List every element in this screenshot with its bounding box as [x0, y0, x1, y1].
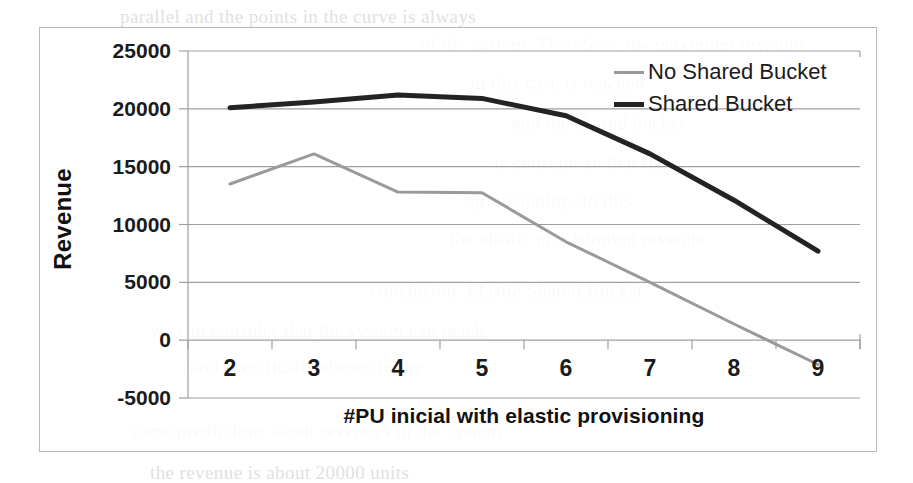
x-tick-label: 7: [620, 357, 680, 380]
chart-legend: No Shared Bucket Shared Bucket: [614, 56, 827, 120]
x-tick-label: 8: [704, 357, 764, 380]
y-tick-label: 15000: [66, 156, 171, 177]
series-lines: [230, 95, 818, 365]
y-tick-label: 25000: [66, 40, 171, 61]
x-tick-label: 5: [452, 357, 512, 380]
x-axis-title: #PU inicial with elastic provisioning: [188, 404, 860, 428]
x-tick-label: 9: [788, 357, 848, 380]
legend-swatch-no-shared-bucket: [614, 71, 644, 74]
y-axis-title: Revenue: [49, 139, 77, 299]
y-tick-label: 5000: [66, 271, 171, 292]
legend-entry-shared-bucket: Shared Bucket: [614, 88, 827, 120]
x-tick-label: 2: [200, 357, 260, 380]
y-tick-label: -5000: [66, 387, 171, 408]
legend-label-no-shared-bucket: No Shared Bucket: [648, 59, 827, 85]
y-tick-label: 20000: [66, 98, 171, 119]
legend-label-shared-bucket: Shared Bucket: [648, 91, 792, 117]
x-tick-label: 3: [284, 357, 344, 380]
x-axis-tick-marks: [188, 340, 860, 349]
y-tick-label: 0: [66, 329, 171, 350]
x-tick-label: 4: [368, 357, 428, 380]
legend-swatch-shared-bucket: [614, 102, 644, 107]
y-tick-label: 10000: [66, 214, 171, 235]
x-tick-label: 6: [536, 357, 596, 380]
legend-entry-no-shared-bucket: No Shared Bucket: [614, 56, 827, 88]
